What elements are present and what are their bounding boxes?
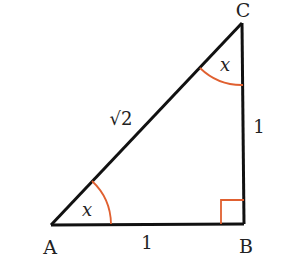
vertex-label-c: C <box>236 0 251 21</box>
angle-label-c: x <box>220 54 230 75</box>
vertex-label-b: B <box>239 235 253 257</box>
side-label-ab: 1 <box>141 232 152 253</box>
angle-label-a: x <box>82 199 92 220</box>
side-ac <box>51 23 242 225</box>
side-label-ac: √2 <box>110 108 133 129</box>
right-angle-marker-b <box>221 200 244 224</box>
triangle-diagram: A B C 1 1 √2 x x <box>0 0 283 264</box>
side-ab <box>51 224 244 225</box>
angle-arc-a <box>92 181 111 224</box>
side-bc <box>242 23 244 224</box>
side-label-bc: 1 <box>253 116 264 137</box>
vertex-label-a: A <box>42 236 57 258</box>
